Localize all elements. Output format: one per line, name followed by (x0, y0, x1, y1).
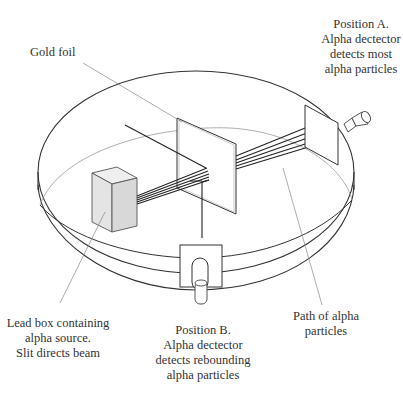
label-position-a: Position A. Alpha dectector detects most… (321, 17, 400, 77)
label-position-b: Position B. Alpha dectector detects rebo… (156, 323, 251, 383)
detector-a-plate (305, 105, 338, 165)
leader-lead-box (60, 212, 105, 303)
label-lead-box: Lead box containing alpha source. Slit d… (7, 316, 110, 361)
detector-b (180, 245, 222, 304)
label-path-alpha: Path of alpha particles (293, 309, 359, 339)
lead-box (92, 167, 137, 232)
leader-path (283, 168, 322, 305)
label-gold-foil: Gold foil (30, 45, 75, 60)
detector-a-tube (344, 110, 372, 132)
